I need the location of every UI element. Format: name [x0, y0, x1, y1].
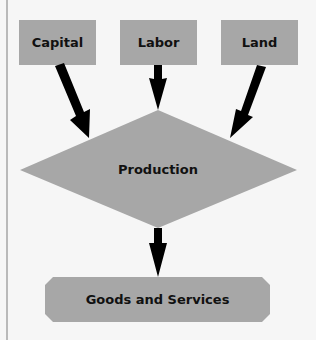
- production-diagram: Capital Labor Land Production Goods and …: [0, 0, 316, 340]
- output-box-goods-and-services: Goods and Services: [45, 277, 270, 322]
- arrow-land-to-production: [230, 65, 266, 138]
- input-label-capital: Capital: [32, 35, 84, 50]
- arrow-labor-to-production: [149, 65, 167, 110]
- input-label-land: Land: [242, 35, 278, 50]
- input-box-capital: Capital: [19, 20, 96, 65]
- process-diamond-production: Production: [20, 110, 297, 228]
- input-label-labor: Labor: [138, 35, 180, 50]
- arrow-capital-to-production: [55, 63, 90, 138]
- input-box-land: Land: [221, 20, 298, 65]
- input-box-labor: Labor: [120, 20, 197, 65]
- arrow-production-to-output: [149, 228, 167, 277]
- output-label-goods-and-services: Goods and Services: [86, 292, 230, 307]
- process-label-production: Production: [118, 162, 198, 177]
